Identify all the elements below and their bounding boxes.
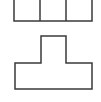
t-shape	[15, 36, 92, 89]
diagram-canvas	[0, 0, 101, 102]
three-cell-rectangle	[14, 0, 92, 21]
outer-rect	[14, 0, 92, 21]
